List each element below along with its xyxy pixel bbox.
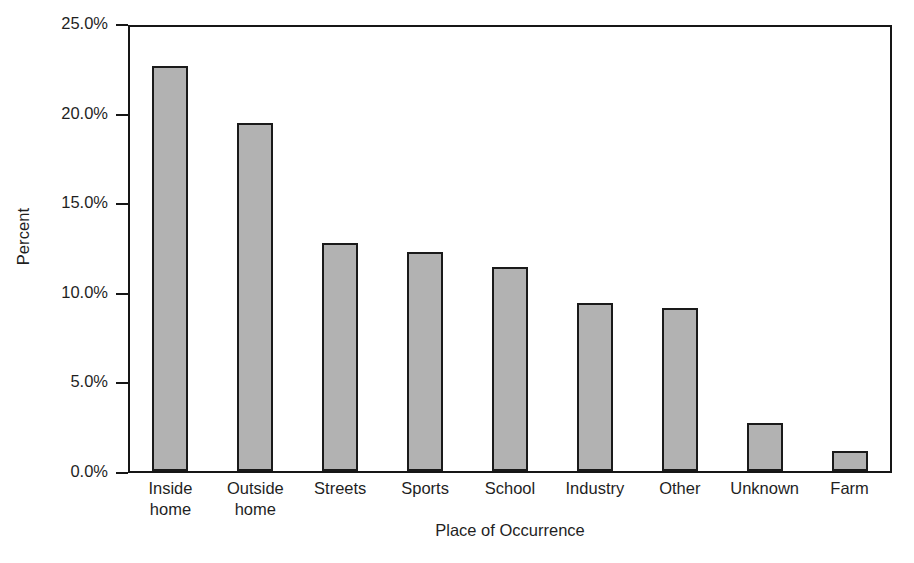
x-axis-label-line: Industry bbox=[566, 479, 625, 497]
bar bbox=[237, 123, 273, 471]
y-axis-tick-label: 10.0% bbox=[61, 283, 108, 302]
x-axis-label-line: Inside bbox=[148, 479, 192, 497]
y-axis-tick-label: 5.0% bbox=[70, 372, 108, 391]
bar bbox=[577, 303, 613, 471]
y-axis-title-text: Percent bbox=[15, 208, 34, 266]
y-axis-tick-mark bbox=[116, 24, 128, 26]
y-axis-tick-label: 20.0% bbox=[61, 104, 108, 123]
bar-chart: Percent 0.0%5.0%10.0%15.0%20.0%25.0% Ins… bbox=[0, 0, 914, 563]
y-axis-tick-mark bbox=[116, 472, 128, 474]
y-axis-tick-mark bbox=[116, 293, 128, 295]
y-axis-tick-label: 15.0% bbox=[61, 193, 108, 212]
bar bbox=[322, 243, 358, 471]
bar bbox=[747, 423, 783, 471]
x-axis-label-line: Other bbox=[659, 479, 700, 497]
x-axis-label: Farm bbox=[800, 478, 899, 499]
x-axis-label-line: home bbox=[206, 499, 305, 520]
y-axis-tick-mark bbox=[116, 114, 128, 116]
x-axis-title: Place of Occurrence bbox=[128, 521, 892, 540]
bars-layer bbox=[130, 27, 890, 471]
x-axis-label-line: Unknown bbox=[730, 479, 799, 497]
bar bbox=[662, 308, 698, 471]
bar bbox=[832, 451, 868, 471]
x-axis-label-line: Streets bbox=[314, 479, 366, 497]
bar bbox=[492, 267, 528, 471]
x-axis-label-line: Outside bbox=[227, 479, 284, 497]
x-axis-label-line: Farm bbox=[830, 479, 869, 497]
y-axis-tick-mark bbox=[116, 382, 128, 384]
y-axis-tick-mark bbox=[116, 203, 128, 205]
x-axis-label-line: School bbox=[485, 479, 535, 497]
bar bbox=[407, 252, 443, 471]
y-axis-tick-label: 0.0% bbox=[70, 462, 108, 481]
x-axis-category-labels: InsidehomeOutsidehomeStreetsSportsSchool… bbox=[128, 478, 892, 526]
y-axis-title: Percent bbox=[4, 0, 44, 473]
y-axis-tick-label: 25.0% bbox=[61, 14, 108, 33]
x-axis-label-line: Sports bbox=[401, 479, 449, 497]
plot-area bbox=[128, 25, 892, 473]
bar bbox=[152, 66, 188, 471]
